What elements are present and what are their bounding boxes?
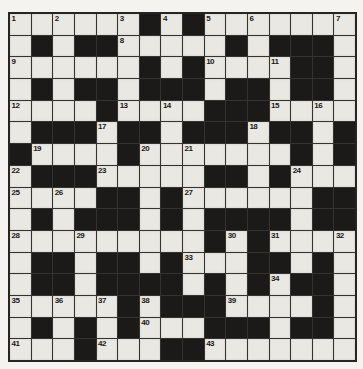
letter-cell-r13-c6[interactable]: 38 [140, 296, 161, 317]
letter-cell-r4-c7[interactable]: 14 [161, 101, 182, 122]
letter-cell-r10-c12[interactable]: 31 [270, 231, 291, 252]
letter-cell-r4-c0[interactable]: 12 [10, 101, 31, 122]
letter-cell-r1-c15[interactable] [334, 36, 355, 57]
letter-cell-r8-c10[interactable] [226, 188, 247, 209]
letter-cell-r2-c2[interactable] [53, 57, 74, 78]
letter-cell-r15-c15[interactable] [334, 339, 355, 360]
letter-cell-r4-c5[interactable]: 13 [118, 101, 139, 122]
letter-cell-r5-c4[interactable]: 17 [97, 122, 118, 143]
letter-cell-r10-c13[interactable] [291, 231, 312, 252]
letter-cell-r12-c0[interactable] [10, 274, 31, 295]
letter-cell-r15-c5[interactable] [118, 339, 139, 360]
letter-cell-r0-c1[interactable] [32, 14, 53, 35]
letter-cell-r0-c4[interactable] [97, 14, 118, 35]
letter-cell-r0-c10[interactable] [226, 14, 247, 35]
letter-cell-r7-c0[interactable]: 22 [10, 166, 31, 187]
letter-cell-r7-c8[interactable] [183, 166, 204, 187]
letter-cell-r4-c1[interactable] [32, 101, 53, 122]
letter-cell-r6-c2[interactable] [53, 144, 74, 165]
letter-cell-r0-c14[interactable] [313, 14, 334, 35]
letter-cell-r13-c13[interactable] [291, 296, 312, 317]
letter-cell-r13-c0[interactable]: 35 [10, 296, 31, 317]
letter-cell-r1-c8[interactable] [183, 36, 204, 57]
letter-cell-r6-c6[interactable]: 20 [140, 144, 161, 165]
letter-cell-r6-c3[interactable] [75, 144, 96, 165]
letter-cell-r2-c1[interactable] [32, 57, 53, 78]
letter-cell-r13-c15[interactable] [334, 296, 355, 317]
letter-cell-r5-c7[interactable] [161, 122, 182, 143]
letter-cell-r12-c8[interactable] [183, 274, 204, 295]
letter-cell-r0-c5[interactable]: 3 [118, 14, 139, 35]
letter-cell-r15-c9[interactable]: 43 [205, 339, 226, 360]
letter-cell-r1-c11[interactable] [248, 36, 269, 57]
letter-cell-r14-c2[interactable] [53, 318, 74, 339]
letter-cell-r2-c4[interactable] [97, 57, 118, 78]
letter-cell-r3-c0[interactable] [10, 79, 31, 100]
letter-cell-r7-c11[interactable] [248, 166, 269, 187]
letter-cell-r1-c7[interactable] [161, 36, 182, 57]
letter-cell-r11-c13[interactable] [291, 253, 312, 274]
letter-cell-r2-c15[interactable] [334, 57, 355, 78]
letter-cell-r10-c15[interactable]: 32 [334, 231, 355, 252]
letter-cell-r15-c13[interactable] [291, 339, 312, 360]
letter-cell-r2-c0[interactable]: 9 [10, 57, 31, 78]
letter-cell-r8-c6[interactable] [140, 188, 161, 209]
letter-cell-r5-c14[interactable] [313, 122, 334, 143]
letter-cell-r2-c7[interactable] [161, 57, 182, 78]
letter-cell-r11-c9[interactable] [205, 253, 226, 274]
letter-cell-r8-c2[interactable]: 26 [53, 188, 74, 209]
letter-cell-r2-c12[interactable]: 11 [270, 57, 291, 78]
letter-cell-r7-c5[interactable] [118, 166, 139, 187]
letter-cell-r6-c14[interactable] [313, 144, 334, 165]
letter-cell-r10-c6[interactable] [140, 231, 161, 252]
letter-cell-r8-c0[interactable]: 25 [10, 188, 31, 209]
letter-cell-r12-c3[interactable] [75, 274, 96, 295]
letter-cell-r7-c4[interactable]: 23 [97, 166, 118, 187]
letter-cell-r13-c10[interactable]: 39 [226, 296, 247, 317]
letter-cell-r6-c11[interactable] [248, 144, 269, 165]
letter-cell-r6-c10[interactable] [226, 144, 247, 165]
letter-cell-r4-c14[interactable]: 16 [313, 101, 334, 122]
letter-cell-r4-c15[interactable] [334, 101, 355, 122]
letter-cell-r15-c0[interactable]: 41 [10, 339, 31, 360]
letter-cell-r10-c8[interactable] [183, 231, 204, 252]
letter-cell-r1-c5[interactable]: 8 [118, 36, 139, 57]
letter-cell-r6-c9[interactable] [205, 144, 226, 165]
letter-cell-r0-c2[interactable]: 2 [53, 14, 74, 35]
letter-cell-r15-c12[interactable] [270, 339, 291, 360]
letter-cell-r4-c2[interactable] [53, 101, 74, 122]
letter-cell-r7-c14[interactable] [313, 166, 334, 187]
letter-cell-r10-c4[interactable] [97, 231, 118, 252]
letter-cell-r0-c9[interactable]: 5 [205, 14, 226, 35]
letter-cell-r14-c8[interactable] [183, 318, 204, 339]
letter-cell-r2-c11[interactable] [248, 57, 269, 78]
letter-cell-r8-c12[interactable] [270, 188, 291, 209]
letter-cell-r6-c8[interactable]: 21 [183, 144, 204, 165]
letter-cell-r2-c9[interactable]: 10 [205, 57, 226, 78]
letter-cell-r0-c13[interactable] [291, 14, 312, 35]
letter-cell-r13-c11[interactable] [248, 296, 269, 317]
letter-cell-r11-c3[interactable] [75, 253, 96, 274]
letter-cell-r14-c0[interactable] [10, 318, 31, 339]
letter-cell-r10-c2[interactable] [53, 231, 74, 252]
letter-cell-r0-c12[interactable] [270, 14, 291, 35]
letter-cell-r6-c4[interactable] [97, 144, 118, 165]
letter-cell-r9-c13[interactable] [291, 209, 312, 230]
letter-cell-r12-c12[interactable]: 34 [270, 274, 291, 295]
letter-cell-r3-c12[interactable] [270, 79, 291, 100]
letter-cell-r4-c3[interactable] [75, 101, 96, 122]
letter-cell-r11-c15[interactable] [334, 253, 355, 274]
letter-cell-r4-c6[interactable] [140, 101, 161, 122]
letter-cell-r15-c4[interactable]: 42 [97, 339, 118, 360]
letter-cell-r6-c12[interactable] [270, 144, 291, 165]
letter-cell-r14-c6[interactable]: 40 [140, 318, 161, 339]
letter-cell-r12-c15[interactable] [334, 274, 355, 295]
letter-cell-r0-c3[interactable] [75, 14, 96, 35]
letter-cell-r14-c12[interactable] [270, 318, 291, 339]
letter-cell-r4-c13[interactable] [291, 101, 312, 122]
letter-cell-r5-c11[interactable]: 18 [248, 122, 269, 143]
letter-cell-r4-c8[interactable] [183, 101, 204, 122]
letter-cell-r13-c3[interactable] [75, 296, 96, 317]
letter-cell-r15-c2[interactable] [53, 339, 74, 360]
letter-cell-r0-c11[interactable]: 6 [248, 14, 269, 35]
